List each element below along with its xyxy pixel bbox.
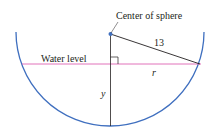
center-label: Center of sphere — [116, 10, 183, 21]
y-label: y — [100, 88, 106, 99]
r-label: r — [152, 67, 156, 78]
right-angle-marker — [111, 57, 119, 64]
center-leader-line — [111, 22, 118, 33]
water-level-label: Water level — [41, 53, 87, 64]
radius-value-label: 13 — [154, 37, 164, 48]
sphere-diagram: Center of sphere 13 Water level r y — [0, 0, 213, 138]
center-dot — [109, 32, 113, 36]
sphere-arc — [16, 32, 204, 126]
